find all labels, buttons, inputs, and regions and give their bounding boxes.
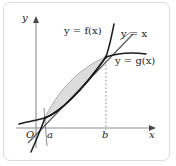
tick-line-at-a — [44, 108, 47, 146]
intersection-point-a — [44, 117, 47, 120]
label-curve-g: y = g(x) — [115, 56, 155, 66]
intersection-point-b — [105, 56, 108, 59]
label-origin: O — [26, 130, 34, 140]
label-curve-f: y = f(x) — [64, 26, 102, 36]
label-x-axis: x — [149, 130, 155, 140]
shaded-region — [45, 57, 106, 118]
label-tick-a: a — [47, 130, 53, 140]
y-axis-arrow-icon — [33, 16, 39, 23]
label-tick-b: b — [102, 130, 108, 140]
label-identity-line: y = x — [121, 29, 147, 39]
label-y-axis: y — [22, 13, 28, 23]
figure-container: y = f(x) y = x y = g(x) y x O a b — [0, 0, 176, 166]
